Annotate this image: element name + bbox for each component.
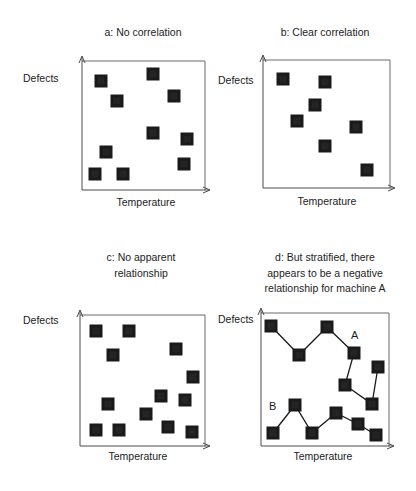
data-point-highlight — [126, 328, 133, 335]
series-label-B: B — [269, 400, 276, 412]
data-point-highlight — [173, 346, 180, 353]
series-line-A — [271, 326, 378, 404]
data-point-highlight — [355, 421, 362, 428]
data-point-highlight — [268, 323, 275, 330]
data-point-highlight — [324, 324, 331, 331]
data-point-highlight — [114, 98, 121, 105]
data-point-highlight — [93, 328, 100, 335]
series-label-A: A — [351, 329, 359, 341]
data-point-highlight — [296, 352, 303, 359]
data-point-highlight — [171, 93, 178, 100]
data-point-highlight — [342, 382, 349, 389]
data-point-highlight — [309, 430, 316, 437]
data-point-highlight — [270, 430, 277, 437]
data-point-highlight — [120, 171, 127, 178]
data-point-highlight — [150, 71, 157, 78]
data-point-highlight — [105, 401, 112, 408]
data-point-highlight — [184, 136, 191, 143]
data-point-highlight — [322, 143, 329, 150]
data-point-highlight — [92, 171, 99, 178]
data-point-highlight — [143, 411, 150, 418]
data-point-highlight — [294, 118, 301, 125]
data-point-highlight — [190, 374, 197, 381]
data-point-highlight — [182, 397, 189, 404]
data-point-highlight — [181, 161, 188, 168]
series-labels: AB — [269, 329, 359, 412]
data-point-highlight — [364, 167, 371, 174]
data-point-highlight — [351, 350, 358, 357]
data-point-highlight — [369, 401, 376, 408]
data-point-highlight — [98, 78, 105, 85]
data-point-highlight — [103, 149, 110, 156]
data-point-highlight — [110, 352, 117, 359]
data-point-highlight — [165, 424, 172, 431]
data-point-highlight — [93, 427, 100, 434]
data-point-highlight — [116, 427, 123, 434]
data-point-highlight — [292, 402, 299, 409]
data-point-highlight — [333, 410, 340, 417]
data-point-highlight — [375, 364, 382, 371]
data-point-highlight — [373, 432, 380, 439]
data-point-highlight — [322, 79, 329, 86]
data-point-highlight — [189, 429, 196, 436]
data-point-highlight — [312, 102, 319, 109]
data-point-highlight — [150, 130, 157, 137]
data-point-highlight — [280, 76, 287, 83]
data-point-highlight — [158, 393, 165, 400]
data-point-highlight — [353, 124, 360, 131]
data-markers — [89, 68, 385, 442]
charts-canvas: AB — [0, 0, 416, 491]
